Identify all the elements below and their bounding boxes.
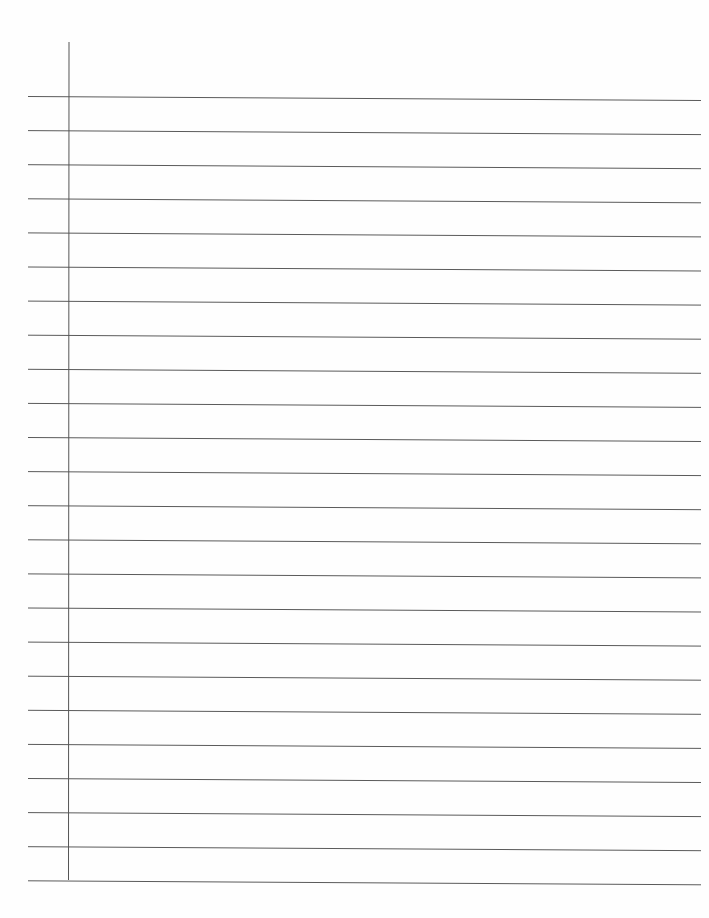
ruled-line <box>28 233 701 237</box>
ruled-line <box>28 403 701 407</box>
ruled-line <box>28 369 701 373</box>
ruled-line <box>28 676 701 680</box>
ruled-line <box>28 881 701 885</box>
ruled-line <box>28 301 701 305</box>
ruled-line <box>28 131 701 135</box>
ruled-line <box>28 97 701 101</box>
ruled-lines <box>0 0 709 918</box>
ruled-line <box>28 574 701 578</box>
ruled-line <box>28 267 701 271</box>
ruled-line <box>28 506 701 510</box>
ruled-line <box>28 165 701 169</box>
ruled-line <box>28 710 701 714</box>
ruled-line <box>28 608 701 612</box>
ruled-line <box>28 813 701 817</box>
ruled-line <box>28 779 701 783</box>
ruled-line <box>28 744 701 748</box>
ruled-line <box>28 472 701 476</box>
ruled-line <box>28 438 701 442</box>
margin-line <box>69 42 70 880</box>
ruled-line <box>28 540 701 544</box>
ruled-line <box>28 199 701 203</box>
ruled-line <box>28 335 701 339</box>
ruled-line <box>28 847 701 851</box>
lined-paper-page <box>0 0 709 918</box>
ruled-line <box>28 642 701 646</box>
